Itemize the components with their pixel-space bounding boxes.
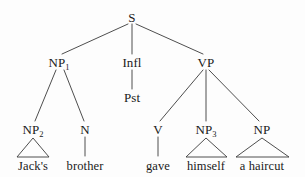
vp-to-np4	[209, 70, 259, 121]
node-np1-subscript: 1	[65, 62, 69, 72]
np4-triangle	[236, 138, 289, 157]
s-to-vp	[136, 24, 203, 54]
node-pst: Pst	[124, 91, 140, 104]
terminal-jacks: Jack's	[18, 160, 48, 173]
node-v: V	[153, 123, 163, 136]
node-infl: Infl	[122, 56, 141, 69]
s-to-np1	[62, 24, 128, 54]
node-np3: NP3	[195, 123, 216, 136]
syntax-tree-diagram: S NP1 Infl VP Pst NP2 N V NP3 NP Jack's …	[0, 0, 305, 177]
np2-triangle	[17, 138, 49, 157]
terminal-brother: brother	[67, 160, 104, 173]
terminal-himself: himself	[187, 160, 225, 173]
np1-to-np2	[35, 70, 56, 121]
tree-edges-layer	[0, 0, 305, 177]
node-vp: VP	[198, 56, 215, 69]
node-np1: NP1	[48, 56, 69, 69]
np1-to-n	[64, 70, 84, 121]
branch-lines	[35, 24, 259, 156]
terminal-gave: gave	[146, 160, 170, 173]
node-np3-subscript: 3	[212, 129, 216, 139]
node-s: S	[128, 11, 135, 24]
node-np2-subscript: 2	[39, 129, 43, 139]
node-np4: NP	[254, 123, 271, 136]
np3-triangle	[186, 138, 227, 157]
terminal-a-haircut: a haircut	[240, 160, 284, 173]
vp-to-v	[160, 70, 203, 121]
node-n: N	[80, 123, 90, 136]
constituent-triangles	[17, 138, 289, 157]
node-np2: NP2	[22, 123, 43, 136]
